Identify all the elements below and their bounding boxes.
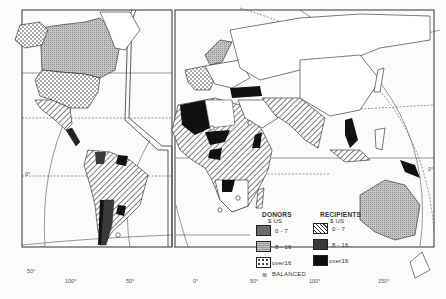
- lon-label-100w: 100°: [65, 278, 76, 284]
- scandinavia: [205, 40, 232, 65]
- lon-label-0: 0°: [193, 278, 198, 284]
- libya-egypt: [205, 100, 235, 128]
- balanced-icon: ⊛: [262, 271, 267, 278]
- lon-label-50w: 50°: [126, 278, 134, 284]
- lat-label-50-left: 50°: [27, 268, 35, 274]
- legend-recipient-label-mid: 8 - 16: [332, 242, 349, 248]
- lat-label-equator-left: 0°: [25, 171, 30, 177]
- australia: [360, 180, 420, 240]
- legend-balanced-label: BALANCED: [272, 271, 306, 277]
- legend-donor-label-mid: 8 - 16: [275, 244, 292, 250]
- lon-label-150e: 150°: [378, 278, 389, 284]
- legend-recipient-swatch-mid: [313, 239, 328, 250]
- turkey: [230, 86, 262, 98]
- legend-recipient-label-high: over16: [329, 258, 349, 264]
- legend-recipient-label-low: 0 - 7: [332, 226, 345, 232]
- south-america: [84, 150, 148, 245]
- legend-recipient-swatch-low: [313, 223, 328, 234]
- legend-recipient-swatch-high: [313, 255, 328, 266]
- indonesia: [330, 150, 370, 162]
- lat-label-equator-right: 0°: [428, 166, 433, 172]
- new-guinea: [400, 160, 420, 178]
- legend-donor-swatch-high: [256, 257, 271, 268]
- venezuela: [116, 155, 128, 166]
- china: [300, 55, 380, 116]
- legend-recipients-unit: $ US: [330, 218, 344, 224]
- legend-donors-unit: $ US: [268, 218, 282, 224]
- indochina-dark: [345, 118, 358, 148]
- world-map: [0, 0, 446, 299]
- legend-recipients-title: RECIPIENTS: [320, 211, 361, 218]
- new-zealand: [410, 252, 430, 278]
- lon-label-50e: 50°: [250, 278, 258, 284]
- legend-donor-label-high: over16: [272, 260, 292, 266]
- philippines: [375, 128, 385, 150]
- legend-donor-swatch-low: [256, 225, 271, 236]
- legend-donors-title: DONORS: [262, 211, 292, 218]
- legend-donor-swatch-mid: [256, 241, 271, 252]
- lon-label-100e: 100°: [309, 278, 320, 284]
- central-america: [66, 128, 80, 146]
- legend-donor-label-low: 0 - 7: [275, 228, 288, 234]
